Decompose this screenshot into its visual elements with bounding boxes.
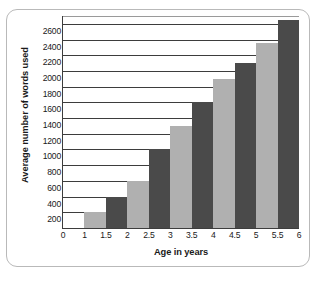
x-axis-tick-labels: 011.522.533.544.555.56 <box>63 230 299 246</box>
axes-region <box>63 16 299 228</box>
y-tick-label: 2600 <box>43 26 61 36</box>
bar-age-2 <box>106 197 127 228</box>
bar-age-5.5 <box>256 43 277 228</box>
bar-age-4 <box>192 102 213 228</box>
gridline <box>63 24 299 25</box>
y-tick-label: 2200 <box>43 57 61 67</box>
x-tick-label: 5.5 <box>272 230 283 240</box>
x-tick-label: 5 <box>254 230 259 240</box>
chart-screenshot: Average number of words used 20040060080… <box>0 0 322 282</box>
y-tick-label: 800 <box>47 167 61 177</box>
gridline-top <box>63 16 299 17</box>
y-tick-label: 1200 <box>43 136 61 146</box>
x-tick-label: 3 <box>168 230 173 240</box>
plot-area: 2004006008001000120014001600180020002200… <box>37 16 302 261</box>
y-axis-tick-labels: 2004006008001000120014001600180020002200… <box>37 16 63 228</box>
bar-age-5 <box>235 63 256 228</box>
y-tick-label: 200 <box>47 214 61 224</box>
x-tick-label: 1 <box>82 230 87 240</box>
x-tick-label: 6 <box>297 230 302 240</box>
x-axis-title: Age in years <box>63 247 299 257</box>
y-tick-label: 2400 <box>43 42 61 52</box>
x-tick-label: 3.5 <box>186 230 197 240</box>
bar-age-4.5 <box>213 79 234 228</box>
x-tick-label: 2.5 <box>143 230 154 240</box>
y-tick-label: 2000 <box>43 73 61 83</box>
x-axis-line <box>62 228 299 229</box>
bar-age-2.5 <box>127 181 148 228</box>
gridline <box>63 40 299 41</box>
x-tick-label: 2 <box>125 230 130 240</box>
y-tick-label: 1600 <box>43 104 61 114</box>
y-axis-title: Average number of words used <box>20 30 30 200</box>
x-tick-label: 4.5 <box>229 230 240 240</box>
y-tick-label: 1400 <box>43 120 61 130</box>
y-tick-label: 400 <box>47 199 61 209</box>
bar-age-1.5 <box>84 212 105 228</box>
y-tick-label: 1000 <box>43 151 61 161</box>
bar-age-3.5 <box>170 126 191 228</box>
bar-age-6 <box>278 20 299 228</box>
y-axis-line <box>62 16 63 228</box>
bar-age-3 <box>149 149 170 228</box>
y-tick-label: 1800 <box>43 89 61 99</box>
x-tick-label: 4 <box>211 230 216 240</box>
x-tick-label: 1.5 <box>100 230 111 240</box>
x-tick-label: 0 <box>61 230 66 240</box>
y-tick-label: 600 <box>47 183 61 193</box>
